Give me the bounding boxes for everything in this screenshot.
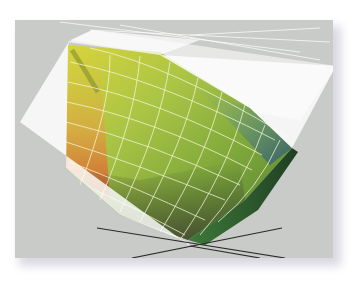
figure-stage (0, 0, 356, 284)
gamut-visualization (0, 0, 356, 284)
